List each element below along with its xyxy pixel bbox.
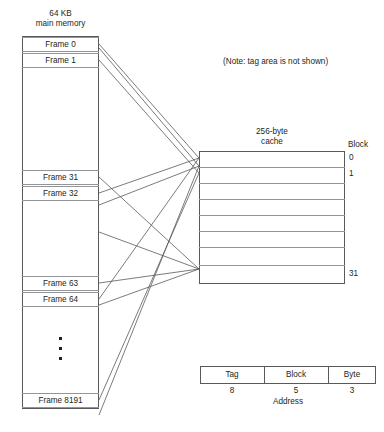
cache-row-divider [199,167,345,168]
connector-extra-a [99,166,199,205]
address-field-name: Block [264,370,328,380]
memory-frame-row: Frame 64 [22,292,99,307]
connector-extra-c [99,269,199,305]
connector-frame8191-block31 [99,173,199,400]
address-caption: Address [200,397,376,407]
cache-title: 256-byte cache [199,127,345,147]
memory-frame-row: Frame 31 [22,170,99,185]
connector-frame64-block0 [99,158,199,299]
cache-row-divider [199,247,345,248]
cache-block-number: 1 [349,169,354,179]
memory-frame-row: Frame 1 [22,53,99,68]
connector-frame32-block0 [99,158,199,193]
address-field-divider [328,366,329,384]
address-field-name: Tag [200,370,264,380]
cache-block-number: 31 [349,269,358,279]
connector-extra-d [99,166,199,415]
connector-frame0-block0 [99,44,199,158]
main-memory-title-line1: 64 KB [22,9,99,19]
cache-title-line2: cache [199,137,345,147]
cache-row-divider [199,199,345,200]
connector-frame31-block31 [99,177,199,269]
cache-title-line1: 256-byte [199,127,345,137]
address-field-divider [264,366,265,384]
connector-extra-b [99,232,199,269]
tag-area-note: (Note: tag area is not shown) [223,57,328,67]
cache-row-divider [199,183,345,184]
address-field-name: Byte [328,370,376,380]
vertical-ellipsis [22,330,99,360]
main-memory-title: 64 KB main memory [22,9,99,29]
address-field-bitcount: 8 [200,386,264,396]
block-column-header: Block [348,140,368,150]
address-field-bitcount: 5 [264,386,328,396]
memory-frame-row: Frame 0 [22,37,99,52]
memory-frame-row: Frame 63 [22,276,99,291]
address-field-bitcount: 3 [328,386,376,396]
cache-block-number: 0 [349,153,354,163]
main-memory-title-line2: main memory [22,19,99,29]
cache-row-divider [199,231,345,232]
cache-mapping-diagram: 64 KB main memory Frame 0Frame 1Frame 31… [0,0,384,432]
memory-frame-row: Frame 32 [22,186,99,201]
connector-frame1-block1 [99,60,199,173]
connector-frame0-alt [99,48,199,166]
cache-row-divider [199,215,345,216]
connector-frame63-block31 [99,269,199,283]
memory-frame-row: Frame 8191 [22,393,99,408]
cache-row-divider [199,265,345,266]
